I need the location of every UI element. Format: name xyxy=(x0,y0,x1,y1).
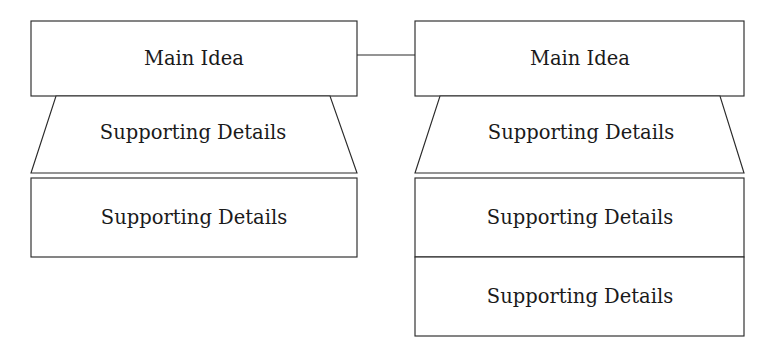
organizer-group-left: Main Idea Supporting Details Supporting … xyxy=(31,21,357,257)
left-supporting-details-label-1: Supporting Details xyxy=(100,121,286,144)
organizer-diagram: Main Idea Supporting Details Supporting … xyxy=(0,0,776,353)
organizer-group-right: Main Idea Supporting Details Supporting … xyxy=(415,21,744,336)
left-main-idea-label: Main Idea xyxy=(144,47,244,70)
left-supporting-details-label-2: Supporting Details xyxy=(101,206,287,229)
right-supporting-details-label-2: Supporting Details xyxy=(487,206,673,229)
right-supporting-details-label-3: Supporting Details xyxy=(487,285,673,308)
diagram-canvas-root: Main Idea Supporting Details Supporting … xyxy=(0,0,776,353)
right-main-idea-label: Main Idea xyxy=(530,47,630,70)
right-supporting-details-label-1: Supporting Details xyxy=(488,121,674,144)
